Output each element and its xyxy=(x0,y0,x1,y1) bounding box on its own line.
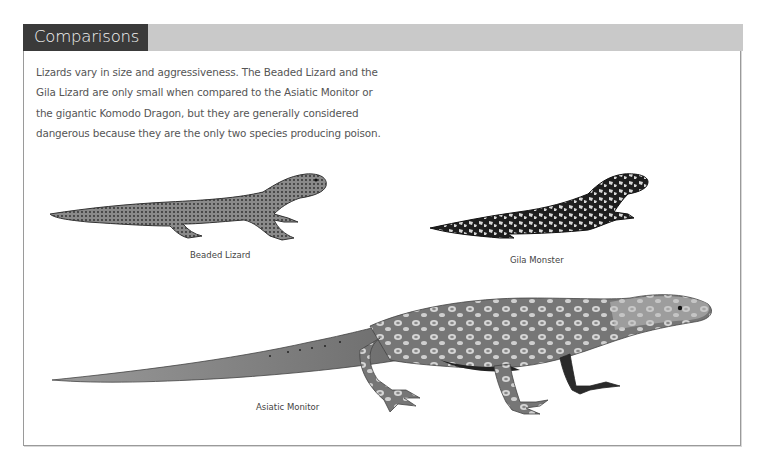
intro-line: dangerous because they are the only two … xyxy=(36,127,381,139)
gila-monster-caption: Gila Monster xyxy=(510,255,564,265)
intro-line: the gigantic Komodo Dragon, but they are… xyxy=(36,107,358,119)
intro-line: Lizards vary in size and aggressiveness.… xyxy=(36,66,378,78)
asiatic-monitor-caption: Asiatic Monitor xyxy=(256,402,319,412)
section-title-tab: Comparisons xyxy=(23,24,148,51)
gila-monster-illustration-icon xyxy=(428,172,650,240)
asiatic-monitor-illustration-icon xyxy=(50,290,716,420)
intro-paragraph: Lizards vary in size and aggressiveness.… xyxy=(36,62,396,143)
beaded-lizard-caption: Beaded Lizard xyxy=(190,250,251,260)
gila-monster-figure xyxy=(428,172,650,240)
intro-line: Gila Lizard are only small when compared… xyxy=(36,86,373,98)
beaded-lizard-figure xyxy=(48,170,330,246)
beaded-lizard-illustration-icon xyxy=(48,170,330,246)
section-title: Comparisons xyxy=(34,27,139,46)
asiatic-monitor-figure xyxy=(50,290,716,420)
